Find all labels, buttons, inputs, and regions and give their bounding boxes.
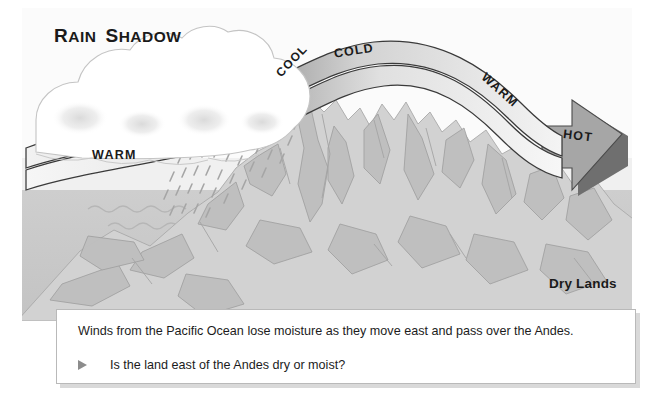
title-word2-rest: HADOW (119, 28, 182, 45)
title-word2-initial: S (96, 25, 118, 46)
sky-layer (17, 8, 637, 321)
rain-shadow-illustration: RAINSHADOW WARM COOL COLD WARM HOT Dry L… (22, 8, 632, 321)
title-word1-initial: R (54, 25, 68, 46)
illustration-canvas (22, 8, 632, 321)
caption-body: Winds from the Pacific Ocean lose moistu… (78, 323, 608, 340)
label-dry-lands: Dry Lands (549, 276, 617, 291)
diagram-page: RAINSHADOW WARM COOL COLD WARM HOT Dry L… (0, 0, 660, 398)
caption-box: Winds from the Pacific Ocean lose moistu… (56, 309, 636, 384)
label-warm-west: WARM (92, 148, 137, 162)
page-title: RAINSHADOW (54, 25, 181, 47)
triangle-right-icon (78, 360, 87, 370)
caption-question-row: Is the land east of the Andes dry or moi… (78, 358, 345, 372)
title-word1-rest: AIN (68, 28, 96, 45)
caption-question: Is the land east of the Andes dry or moi… (96, 358, 345, 372)
